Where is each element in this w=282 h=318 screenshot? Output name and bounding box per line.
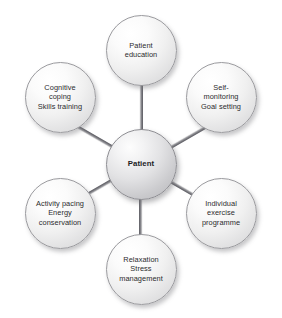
node-relaxation-stress-management: Relaxation Stress management: [106, 234, 177, 305]
node-individual-exercise-programme: Individual exercise programme: [186, 178, 257, 249]
node-label-activity-pacing-energy-conservation: Activity pacing Energy conservation: [32, 199, 88, 227]
node-self-monitoring-goal-setting: Self- monitoring Goal setting: [186, 62, 257, 133]
node-activity-pacing-energy-conservation: Activity pacing Energy conservation: [25, 178, 96, 249]
node-label-relaxation-stress-management: Relaxation Stress management: [115, 255, 167, 283]
node-label-cognitive-coping-skills-training: Cognitive coping Skills training: [34, 83, 86, 111]
node-label-individual-exercise-programme: Individual exercise programme: [198, 199, 244, 227]
node-label-patient-center: Patient: [124, 159, 158, 168]
node-label-self-monitoring-goal-setting: Self- monitoring Goal setting: [197, 83, 245, 111]
node-label-patient-education: Patient education: [121, 41, 162, 60]
node-cognitive-coping-skills-training: Cognitive coping Skills training: [25, 62, 96, 133]
node-patient-education: Patient education: [106, 15, 177, 86]
node-patient-center: Patient: [106, 129, 177, 200]
diagram-canvas: Patient education Self- monitoring Goal …: [0, 0, 282, 318]
